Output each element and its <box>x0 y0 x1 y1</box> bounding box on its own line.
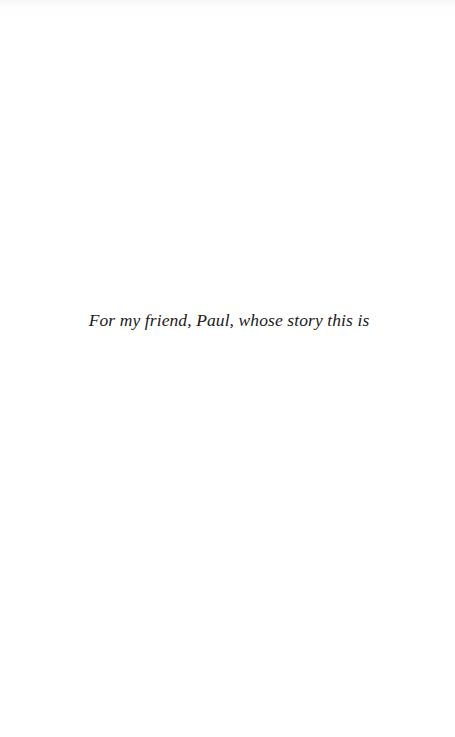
dedication-text: For my friend, Paul, whose story this is <box>0 309 455 331</box>
book-page: For my friend, Paul, whose story this is <box>0 0 455 737</box>
